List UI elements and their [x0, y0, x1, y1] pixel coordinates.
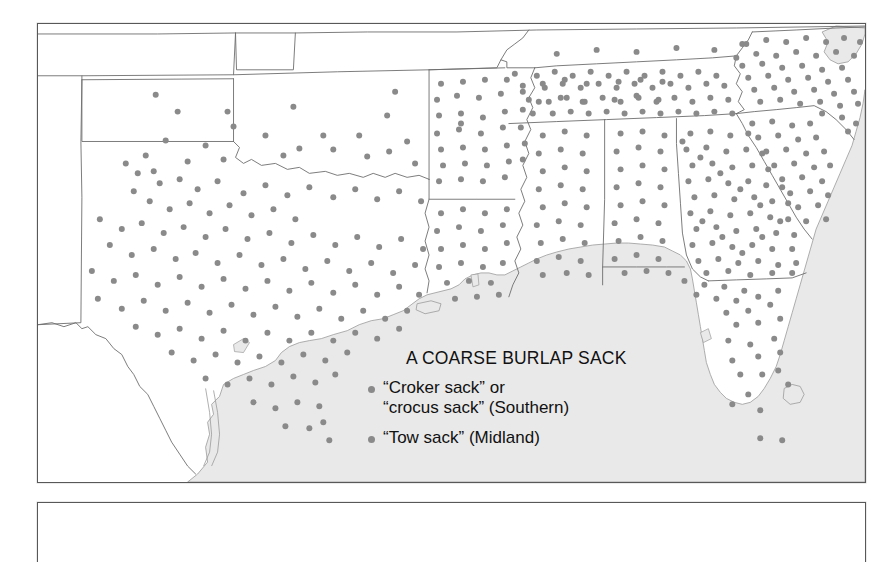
dot-icon: [368, 386, 375, 393]
map-figure: A COARSE BURLAP SACK “Croker sack” or “c…: [37, 23, 866, 483]
next-figure-frame: [37, 502, 866, 562]
lake-okeechobee: [783, 384, 804, 404]
map-legend: A COARSE BURLAP SACK “Croker sack” or “c…: [368, 349, 688, 448]
dot-icon: [368, 436, 375, 443]
legend-entry-tow-sack: “Tow sack” (Midland): [368, 428, 688, 448]
legend-title: A COARSE BURLAP SACK: [368, 349, 688, 368]
legend-entry-croker-sack: “Croker sack” or “crocus sack” (Southern…: [368, 378, 688, 418]
legend-entry-label: “Tow sack” (Midland): [383, 428, 540, 448]
legend-entry-label: “Croker sack” or “crocus sack” (Southern…: [383, 378, 569, 418]
